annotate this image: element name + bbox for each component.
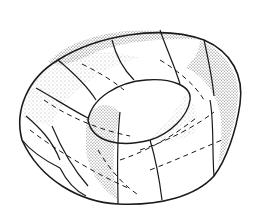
twisted-band-drawing <box>0 0 257 216</box>
shading <box>20 31 238 200</box>
figure-canvas <box>0 0 257 216</box>
